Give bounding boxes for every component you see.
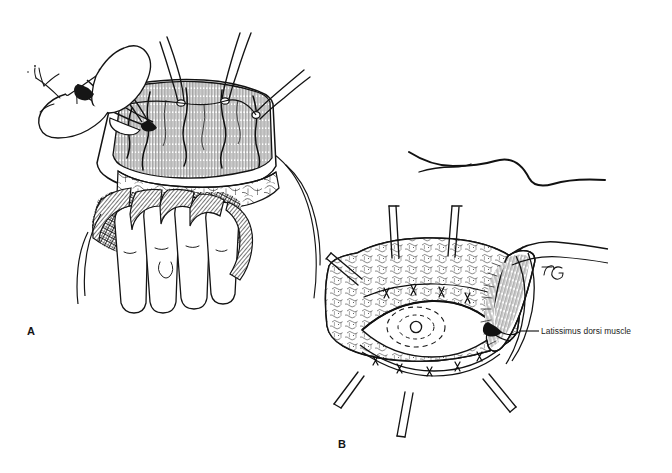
surgical-illustration-canvas xyxy=(0,0,672,473)
panel-letter-a: A xyxy=(27,325,35,337)
panel-letter-b: B xyxy=(338,438,346,450)
label-latissimus-dorsi-muscle: Latissimus dorsi muscle xyxy=(541,326,631,336)
figure-root: A B Latissimus dorsi muscle xyxy=(0,0,672,473)
